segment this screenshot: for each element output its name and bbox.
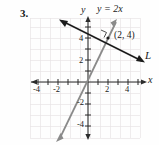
equation-label: y = 2x (97, 3, 123, 14)
ytick-label-2: 2 (79, 55, 83, 65)
line-L (59, 20, 145, 63)
ytick-label-neg4: -4 (77, 119, 84, 129)
xtick-label-4: 4 (125, 84, 129, 94)
xtick-label-neg4: -4 (33, 84, 40, 94)
y-axis-label: y (81, 4, 85, 15)
x-axis-label: x (148, 74, 152, 85)
intersection-point (106, 36, 109, 39)
xtick-label-2: 2 (105, 84, 109, 94)
line-L-label: L (145, 49, 151, 61)
ytick-label-4: 4 (79, 33, 83, 43)
point-coordinate-label: (2, 4) (114, 30, 135, 40)
right-angle-marker (101, 30, 107, 38)
ytick-label-neg2: -2 (77, 97, 84, 107)
xtick-label-neg2: -2 (53, 84, 60, 94)
figure-container: 3. (0, 0, 159, 145)
